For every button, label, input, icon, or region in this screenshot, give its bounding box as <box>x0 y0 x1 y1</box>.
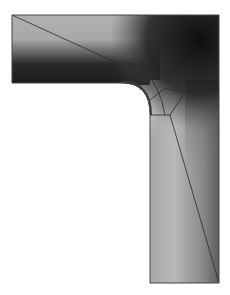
fea-l-bracket-diagram <box>0 0 230 295</box>
stress-contour <box>0 0 230 295</box>
